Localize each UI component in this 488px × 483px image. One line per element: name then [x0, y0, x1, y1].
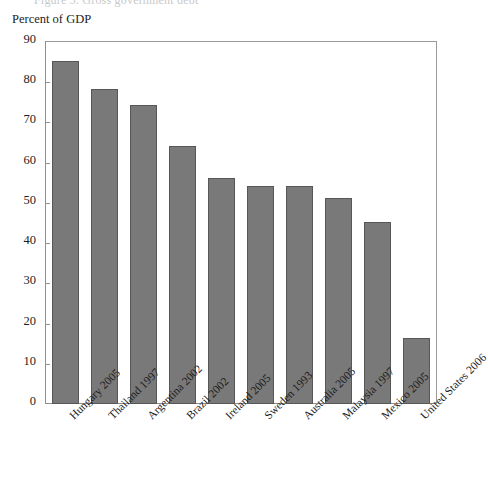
y-axis-tick-label: 20: [24, 315, 37, 328]
clipped-figure-title: Figure 3. Gross government debt: [34, 0, 199, 8]
y-axis-tick: 0: [0, 404, 45, 405]
plot-area: [46, 42, 436, 404]
y-axis-tick-label: 30: [24, 274, 37, 287]
bar: [130, 105, 157, 404]
y-axis-tick: 40: [0, 243, 45, 244]
y-axis-tick: 50: [0, 203, 45, 204]
bar: [208, 178, 235, 404]
y-axis-tick-label: 50: [24, 194, 37, 207]
y-axis-tick: 20: [0, 324, 45, 325]
y-axis-tick-label: 60: [24, 154, 37, 167]
bar: [91, 89, 118, 404]
y-axis-tick-label: 70: [24, 113, 37, 126]
y-axis-tick: 70: [0, 122, 45, 123]
axis-label-percent-of-gdp: Percent of GDP: [12, 12, 91, 27]
y-axis-tick-label: 0: [30, 395, 36, 408]
y-axis-tick-label: 80: [24, 73, 37, 86]
y-axis-tick-label: 40: [24, 234, 37, 247]
y-axis-tick: 90: [0, 42, 45, 43]
bar: [247, 186, 274, 404]
bar: [52, 61, 79, 404]
y-axis-tick: 10: [0, 364, 45, 365]
y-axis-tick-label: 10: [24, 355, 37, 368]
x-axis-labels: Hungary 2005Thailand 1997Argentina 2002B…: [46, 409, 436, 483]
y-axis-tick: 80: [0, 82, 45, 83]
y-axis-tick-label: 90: [24, 33, 37, 46]
y-axis-tick: 30: [0, 283, 45, 284]
y-axis-tick: 60: [0, 163, 45, 164]
